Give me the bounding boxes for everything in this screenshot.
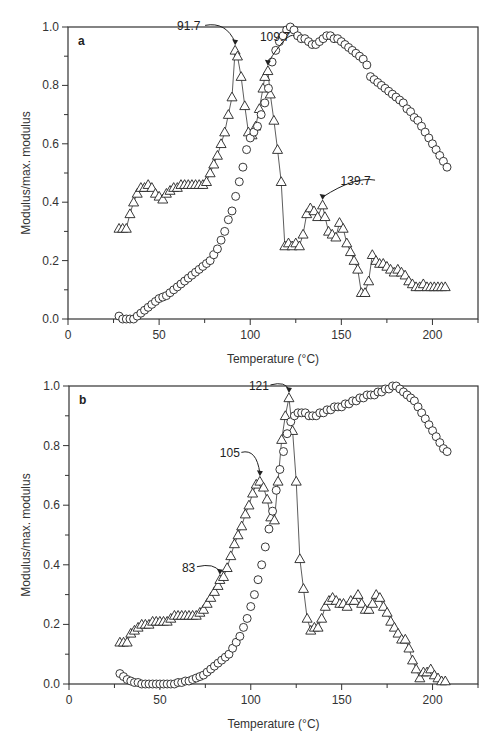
x-tick-label: 200 — [423, 693, 443, 707]
circle-marker — [443, 163, 451, 171]
triangle-marker — [318, 200, 328, 209]
triangle-marker — [248, 488, 258, 497]
circle-marker — [243, 614, 251, 622]
circle-marker — [261, 99, 269, 107]
y-tick-label: 0.2 — [43, 617, 60, 631]
y-tick-label: 0.8 — [43, 439, 60, 453]
y-tick-label: 1.0 — [43, 379, 60, 393]
x-tick-label: 100 — [241, 693, 261, 707]
chart-a-svg: 0501001502000.00.20.40.60.81.0Temperatur… — [0, 0, 499, 371]
circle-marker — [232, 192, 240, 200]
triangle-marker — [364, 276, 374, 285]
x-tick-label: 50 — [153, 693, 167, 707]
triangle-marker — [220, 127, 230, 136]
panel-label: a — [78, 34, 85, 48]
triangle-marker — [353, 590, 363, 599]
plot-frame — [69, 386, 478, 684]
triangle-marker — [209, 159, 219, 168]
triangle-marker — [205, 168, 215, 177]
triangle-marker — [240, 509, 250, 518]
circle-marker — [279, 448, 287, 456]
arrowhead-icon — [320, 194, 326, 200]
circle-marker — [243, 146, 251, 154]
peak-annotation: 121 — [249, 379, 269, 393]
annotation-arrow — [197, 565, 220, 571]
triangle-marker — [295, 554, 305, 563]
x-axis-title: Temperature (°C) — [227, 717, 319, 731]
y-tick-label: 0.4 — [43, 558, 60, 572]
triangle-marker — [222, 563, 232, 572]
circle-marker — [257, 111, 265, 119]
x-tick-label: 100 — [240, 328, 260, 342]
triangle-marker — [229, 539, 239, 548]
y-tick-label: 0.4 — [42, 195, 59, 209]
triangle-marker — [317, 613, 327, 622]
triangle-marker — [273, 476, 283, 485]
circle-marker — [240, 623, 248, 631]
triangle-marker — [320, 212, 330, 221]
triangle-marker — [302, 613, 312, 622]
triangle-marker — [262, 494, 272, 503]
y-tick-label: 0.6 — [42, 137, 59, 151]
peak-annotation: 83 — [182, 561, 196, 575]
triangle-marker — [236, 72, 246, 81]
triangle-marker — [223, 110, 233, 119]
triangle-marker — [298, 584, 308, 593]
arrowhead-icon — [286, 387, 292, 393]
circle-marker — [283, 430, 291, 438]
y-tick-label: 0.8 — [42, 78, 59, 92]
circle-marker — [272, 486, 280, 494]
arrowhead-icon — [232, 39, 238, 45]
y-tick-label: 0.0 — [42, 312, 59, 326]
y-axis-title: Modulus/max. modulus — [19, 473, 33, 596]
circle-marker — [235, 178, 243, 186]
triangle-marker — [276, 177, 286, 186]
triangle-marker — [237, 521, 247, 530]
panel-label: b — [79, 393, 86, 407]
y-tick-label: 0.6 — [43, 498, 60, 512]
circle-marker — [224, 216, 232, 224]
triangle-marker — [411, 664, 421, 673]
circle-marker — [213, 245, 221, 253]
triangle-marker — [284, 393, 294, 402]
triangle-marker — [404, 643, 414, 652]
circle-marker — [443, 448, 451, 456]
circle-marker — [221, 227, 229, 235]
x-tick-label: 200 — [422, 328, 442, 342]
circle-marker — [228, 207, 236, 215]
y-tick-label: 1.0 — [42, 20, 59, 34]
annotation-arrow — [270, 384, 289, 390]
triangle-marker — [125, 209, 135, 218]
triangle-marker — [263, 66, 273, 75]
x-tick-label: 0 — [65, 328, 72, 342]
triangle-marker — [216, 139, 226, 148]
circle-marker — [264, 84, 272, 92]
x-tick-label: 50 — [152, 328, 166, 342]
annotation-arrow — [241, 452, 260, 474]
triangle-marker — [129, 197, 139, 206]
triangle-marker — [353, 264, 363, 273]
triangle-marker — [298, 229, 308, 238]
x-tick-label: 150 — [331, 328, 351, 342]
circle-marker — [239, 163, 247, 171]
triangle-marker — [345, 247, 355, 256]
circle-marker — [254, 122, 262, 130]
circle-marker — [276, 465, 284, 473]
circle-marker — [247, 603, 255, 611]
triangle-marker — [349, 256, 359, 265]
chart-panel-b: 0501001502000.00.20.40.60.81.0Temperatur… — [0, 371, 499, 742]
series-line — [119, 50, 445, 292]
circle-marker — [269, 507, 277, 515]
circle-marker — [217, 236, 225, 244]
y-axis-title: Modulus/max. modulus — [19, 111, 33, 234]
triangle-marker — [408, 655, 418, 664]
x-tick-label: 150 — [332, 693, 352, 707]
x-tick-label: 0 — [66, 693, 73, 707]
triangle-marker — [240, 101, 250, 110]
circle-marker — [265, 525, 273, 533]
y-tick-label: 0.2 — [42, 254, 59, 268]
triangle-marker — [233, 530, 243, 539]
circle-marker — [254, 576, 262, 584]
peak-annotation: 109.7 — [260, 30, 290, 44]
circle-marker — [258, 561, 266, 569]
